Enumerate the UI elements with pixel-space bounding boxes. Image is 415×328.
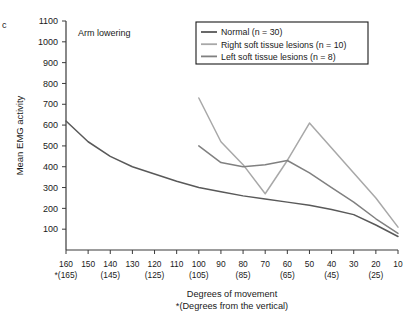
y-tick-label: 900 [43,58,58,68]
legend-label-0: Normal (n = 30) [221,27,282,37]
x-tick-label: 150 [81,259,95,269]
x-tick-label: 100 [192,259,206,269]
x-tick-label: 30 [349,259,359,269]
x-tick-label: 80 [238,259,248,269]
x-tick-sublabel: (105) [189,270,209,280]
x-tick-label: 60 [283,259,293,269]
x-tick-label: 50 [305,259,315,269]
x-tick-sublabel: *(165) [55,270,78,280]
x-axis-label-secondary: *(Degrees from the vertical) [176,301,288,311]
y-tick-label: 300 [43,183,58,193]
y-tick-label: 1000 [38,37,58,47]
x-tick-sublabel: (25) [368,270,383,280]
y-tick-label: 800 [43,79,58,89]
x-tick-label: 90 [216,259,226,269]
y-tick-label: 100 [43,224,58,234]
legend-label-2: Left soft tissue lesions (n = 8) [221,52,336,62]
x-tick-sublabel: (125) [145,270,165,280]
x-tick-label: 20 [371,259,381,269]
x-tick-sublabel: (85) [236,270,251,280]
x-tick-label: 140 [103,259,117,269]
legend-label-1: Right soft tissue lesions (n = 10) [221,40,346,50]
x-tick-sublabel: (45) [324,270,339,280]
x-tick-sublabel: (65) [280,270,295,280]
y-tick-label: 700 [43,99,58,109]
series-line-1 [199,98,398,227]
x-tick-sublabel: (145) [100,270,120,280]
y-tick-label: 400 [43,162,58,172]
x-tick-label: 130 [125,259,139,269]
series-line-0 [66,121,398,237]
x-tick-label: 10 [393,259,403,269]
y-tick-label: 1100 [39,16,58,26]
y-tick-label: 200 [43,204,58,214]
y-tick-label: 600 [43,120,58,130]
x-tick-label: 110 [170,259,184,269]
plot-annotation: Arm lowering [78,28,131,38]
chart-plot-area: 10020030040050060070080090010001100160*(… [0,0,415,328]
x-tick-label: 160 [59,259,73,269]
y-tick-label: 500 [43,141,58,151]
figure-panel-c: c Mean EMG activity 10020030040050060070… [0,0,415,328]
x-tick-label: 70 [261,259,271,269]
x-tick-label: 40 [327,259,337,269]
x-tick-label: 120 [148,259,162,269]
x-axis-label-primary: Degrees of movement [187,289,278,299]
